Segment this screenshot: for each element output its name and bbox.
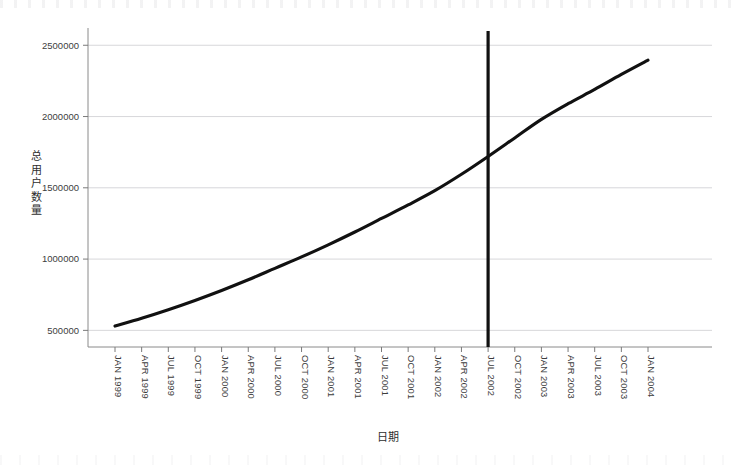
data-series-line [115, 60, 648, 326]
x-tick-label: OCT 2001 [406, 355, 416, 399]
y-axis-title-char: 量 [31, 204, 42, 217]
y-axis-title-char: 用 [31, 164, 42, 177]
x-tick-label: JAN 2000 [220, 355, 230, 397]
x-tick-marks-group [115, 347, 648, 352]
y-tick-label: 2000000 [42, 111, 79, 122]
x-tick-label: JUL 2002 [486, 355, 496, 396]
x-tick-label: APR 1999 [140, 355, 150, 399]
x-tick-label: JAN 2003 [539, 355, 549, 397]
y-tick-label: 1000000 [42, 253, 79, 264]
x-tick-label: JAN 1999 [113, 355, 123, 397]
x-tick-label: APR 2000 [246, 355, 256, 399]
y-tick-labels-group: 5000001000000150000020000002500000 [42, 40, 79, 336]
x-tick-label: OCT 2000 [300, 355, 310, 399]
x-tick-labels-group: JAN 1999APR 1999JUL 1999OCT 1999JAN 2000… [113, 355, 656, 399]
gridlines-group [88, 45, 712, 330]
line-chart-canvas: 5000001000000150000020000002500000 JAN 1… [0, 0, 735, 471]
y-axis-title: 总用户数量 [31, 149, 42, 217]
x-tick-label: JAN 2004 [646, 355, 656, 397]
x-tick-label: JUL 1999 [166, 355, 176, 396]
x-tick-label: JUL 2001 [380, 355, 390, 396]
y-tick-label: 2500000 [42, 40, 79, 51]
x-tick-label: JUL 2003 [593, 355, 603, 396]
x-tick-label: APR 2001 [353, 355, 363, 399]
y-axis-title-char: 数 [31, 191, 42, 204]
x-tick-label: JAN 2001 [326, 355, 336, 397]
x-tick-label: OCT 2002 [513, 355, 523, 399]
x-tick-label: OCT 2003 [619, 355, 629, 399]
y-tick-label: 500000 [47, 325, 79, 336]
x-tick-label: OCT 1999 [193, 355, 203, 399]
x-tick-label: APR 2003 [566, 355, 576, 399]
y-axis-title-char: 户 [31, 176, 42, 190]
y-axis-title-char: 总 [31, 149, 42, 163]
y-tick-marks-group [83, 45, 88, 330]
x-tick-label: JAN 2002 [433, 355, 443, 397]
x-axis-title: 日期 [377, 431, 399, 444]
x-tick-label: APR 2002 [459, 355, 469, 399]
x-tick-label: JUL 2000 [273, 355, 283, 396]
y-tick-label: 1500000 [42, 182, 79, 193]
chart-figure: 5000001000000150000020000002500000 JAN 1… [0, 0, 735, 471]
